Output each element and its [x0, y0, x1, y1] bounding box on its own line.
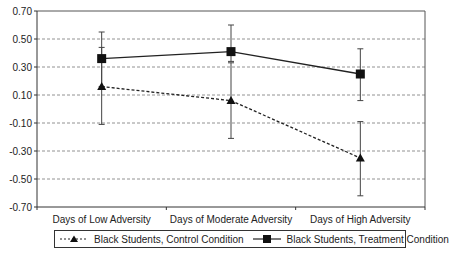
y-tick-label: -0.30: [9, 146, 32, 157]
y-tick-label: -0.50: [9, 174, 32, 185]
square-marker-icon: [227, 47, 236, 56]
x-category-label: Days of Moderate Adversity: [170, 214, 292, 225]
y-tick-label: 0.30: [13, 62, 33, 73]
y-tick-label: -0.70: [9, 202, 32, 213]
solid-square-line-icon: [252, 234, 282, 244]
x-category-label: Days of Low Adversity: [52, 214, 150, 225]
legend-item-control: Black Students, Control Condition: [59, 234, 244, 245]
square-marker-icon: [97, 54, 106, 63]
legend: Black Students, Control Condition Black …: [54, 230, 406, 248]
y-tick-label: 0.70: [13, 6, 33, 17]
legend-label-treatment: Black Students, Treatment Condition: [287, 234, 449, 245]
y-tick-label: -0.10: [9, 118, 32, 129]
triangle-marker-icon: [356, 154, 365, 162]
y-tick-label: 0.50: [13, 34, 33, 45]
legend-label-control: Black Students, Control Condition: [94, 234, 244, 245]
triangle-marker-icon: [97, 82, 106, 90]
dashed-triangle-line-icon: [59, 234, 89, 244]
x-category-label: Days of High Adversity: [310, 214, 411, 225]
legend-item-treatment: Black Students, Treatment Condition: [252, 234, 449, 245]
square-marker-icon: [356, 70, 365, 79]
y-tick-label: 0.10: [13, 90, 33, 101]
